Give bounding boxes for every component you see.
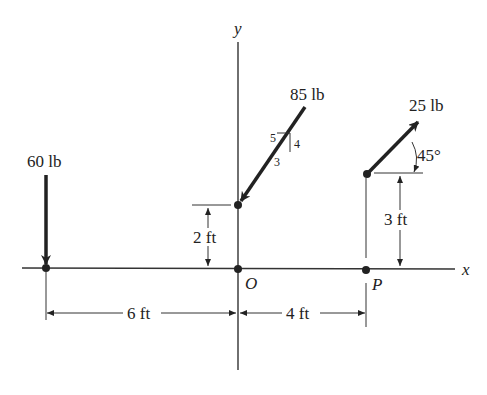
force-25-arrow <box>367 122 418 174</box>
angle-label-45: 45° <box>417 146 441 165</box>
force-85-point <box>234 201 242 209</box>
x-axis-label: x <box>461 260 470 279</box>
force-85-label: 85 lb <box>290 85 324 104</box>
origin-point <box>234 265 242 273</box>
point-p <box>362 266 370 274</box>
slope-rise: 4 <box>294 137 300 151</box>
force-60-point <box>42 264 50 272</box>
slope-hyp: 5 <box>270 131 276 145</box>
slope-run: 3 <box>274 155 280 169</box>
force-diagram: x y O P 60 lb 85 lb 5 4 3 25 lb 45° 3 ft… <box>0 0 487 395</box>
dimension-2ft-label: 2 ft <box>193 228 216 247</box>
y-axis-label: y <box>232 19 242 38</box>
angle-arc-45 <box>412 142 417 172</box>
dimension-4ft-label: 4 ft <box>286 304 309 323</box>
force-60-label: 60 lb <box>27 152 61 171</box>
point-p-label: P <box>371 275 382 294</box>
dimension-6ft-label: 6 ft <box>127 304 150 323</box>
dimension-3ft-label: 3 ft <box>384 210 407 229</box>
force-25-label: 25 lb <box>409 96 443 115</box>
origin-label: O <box>245 274 257 293</box>
force-85-arrow <box>241 107 305 201</box>
